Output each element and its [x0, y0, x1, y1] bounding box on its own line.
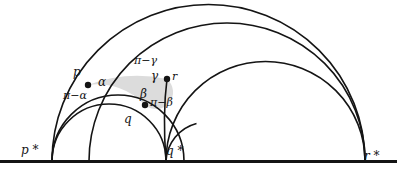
- vertex-dot-r: [164, 76, 170, 82]
- ideal-point-label-q-star: q *: [166, 145, 184, 157]
- ideal-point-label-p-star: p *: [21, 144, 39, 156]
- figure-canvas: [0, 0, 397, 171]
- angle-label-beta: β: [140, 88, 147, 100]
- vertex-dot-q: [142, 102, 148, 108]
- vertex-label-q: q: [124, 113, 132, 125]
- angle-label-pi-minus-beta: π−β: [150, 97, 173, 108]
- vertex-label-p: p: [73, 66, 81, 78]
- vertex-label-r: r: [172, 71, 177, 82]
- angle-label-pi-minus-alpha: π−α: [63, 90, 87, 101]
- geodesic-p-star-q-star-inner: [52, 104, 166, 161]
- hyperbolic-triangle-figure: p q r α β γ π−α π−β π−γ p * q * r *: [0, 0, 397, 171]
- angle-label-alpha: α: [98, 76, 106, 88]
- angle-label-gamma: γ: [151, 70, 158, 82]
- angle-label-pi-minus-gamma: π−γ: [134, 55, 157, 66]
- vertex-dot-p: [85, 82, 91, 88]
- ideal-point-label-r-star: r *: [364, 150, 380, 162]
